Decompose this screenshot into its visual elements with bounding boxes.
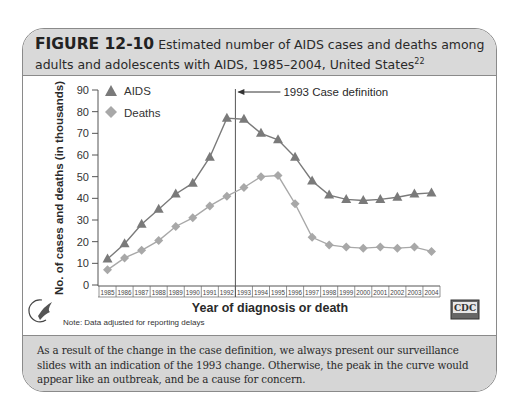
x-tick-label: 1989 — [169, 289, 184, 296]
diamond-marker-icon — [188, 213, 197, 222]
diamond-marker-icon — [393, 244, 402, 253]
arrow-head-icon — [237, 89, 244, 95]
x-tick-label: 2000 — [356, 289, 371, 296]
y-tick-label: 10 — [77, 257, 89, 269]
x-tick-label: 2001 — [373, 289, 388, 296]
x-tick-label: 1988 — [152, 289, 167, 296]
x-axis-title: Year of diagnosis or death — [192, 301, 348, 315]
y-tick-label: 30 — [77, 214, 89, 226]
triangle-marker-icon — [358, 195, 368, 204]
x-tick-label: 1998 — [322, 289, 337, 296]
aids-line — [108, 118, 432, 259]
x-tick-label: 1995 — [271, 289, 286, 296]
triangle-marker-icon — [239, 114, 249, 123]
triangle-marker-icon — [171, 189, 181, 198]
triangle-marker-icon — [426, 187, 436, 196]
diamond-marker-icon — [222, 192, 231, 201]
triangle-marker-icon — [324, 190, 334, 199]
diamond-marker-icon — [120, 253, 129, 262]
x-tick-label: 1997 — [305, 289, 320, 296]
annotation-label: 1993 Case definition — [283, 86, 388, 98]
x-tick-label: 2002 — [390, 289, 405, 296]
x-tick-label: 2004 — [424, 289, 439, 296]
legend-diamond-icon — [105, 106, 117, 118]
diamond-marker-icon — [239, 183, 248, 192]
diamond-marker-icon — [137, 246, 146, 255]
triangle-marker-icon — [154, 204, 164, 213]
y-tick-label: 50 — [77, 171, 89, 183]
diamond-marker-icon — [291, 199, 300, 208]
diamond-marker-icon — [376, 243, 385, 252]
x-tick-label: 1996 — [288, 289, 303, 296]
x-tick-label: 1994 — [254, 289, 269, 296]
x-tick-label: 1993 — [237, 289, 252, 296]
diamond-marker-icon — [359, 244, 368, 253]
x-tick-label: 1985 — [101, 289, 116, 296]
diamond-marker-icon — [342, 243, 351, 252]
y-tick-label: 20 — [77, 236, 89, 248]
x-tick-label: 1990 — [186, 289, 201, 296]
y-tick-label: 60 — [77, 149, 89, 161]
legend-aids-label: AIDS — [124, 85, 151, 97]
triangle-marker-icon — [103, 254, 113, 263]
triangle-marker-icon — [222, 113, 232, 122]
cdc-logo-text: CDC — [454, 303, 476, 313]
y-tick-label: 80 — [77, 106, 89, 118]
y-axis-title: No. of cases and deaths (in thousands) — [53, 81, 65, 295]
diamond-marker-icon — [308, 233, 317, 242]
diamond-marker-icon — [274, 171, 283, 180]
diamond-marker-icon — [205, 201, 214, 210]
x-tick-label: 1991 — [203, 289, 218, 296]
triangle-marker-icon — [137, 219, 147, 228]
x-tick-label: 1992 — [220, 289, 235, 296]
x-tick-label: 1987 — [135, 289, 150, 296]
diamond-marker-icon — [256, 172, 265, 181]
y-tick-label: 90 — [77, 84, 89, 96]
triangle-marker-icon — [205, 152, 215, 161]
triangle-marker-icon — [409, 189, 419, 198]
y-tick-label: 70 — [77, 127, 89, 139]
deaths-line — [108, 176, 432, 270]
x-tick-label: 1999 — [339, 289, 354, 296]
line-chart: 0102030405060708090198519861987198819891… — [0, 0, 509, 403]
chart-note: Note: Data adjusted for reporting delays — [63, 318, 204, 327]
legend-deaths-label: Deaths — [124, 107, 161, 119]
x-tick-label: 1986 — [118, 289, 133, 296]
hhs-eagle-icon — [38, 302, 52, 320]
diamond-marker-icon — [325, 240, 334, 249]
diamond-marker-icon — [103, 265, 112, 274]
y-tick-label: 40 — [77, 192, 89, 204]
diamond-marker-icon — [427, 247, 436, 256]
diamond-marker-icon — [410, 243, 419, 252]
y-tick-label: 0 — [83, 279, 89, 291]
triangle-marker-icon — [256, 128, 266, 137]
x-tick-label: 2003 — [407, 289, 422, 296]
legend-triangle-icon — [105, 85, 117, 96]
